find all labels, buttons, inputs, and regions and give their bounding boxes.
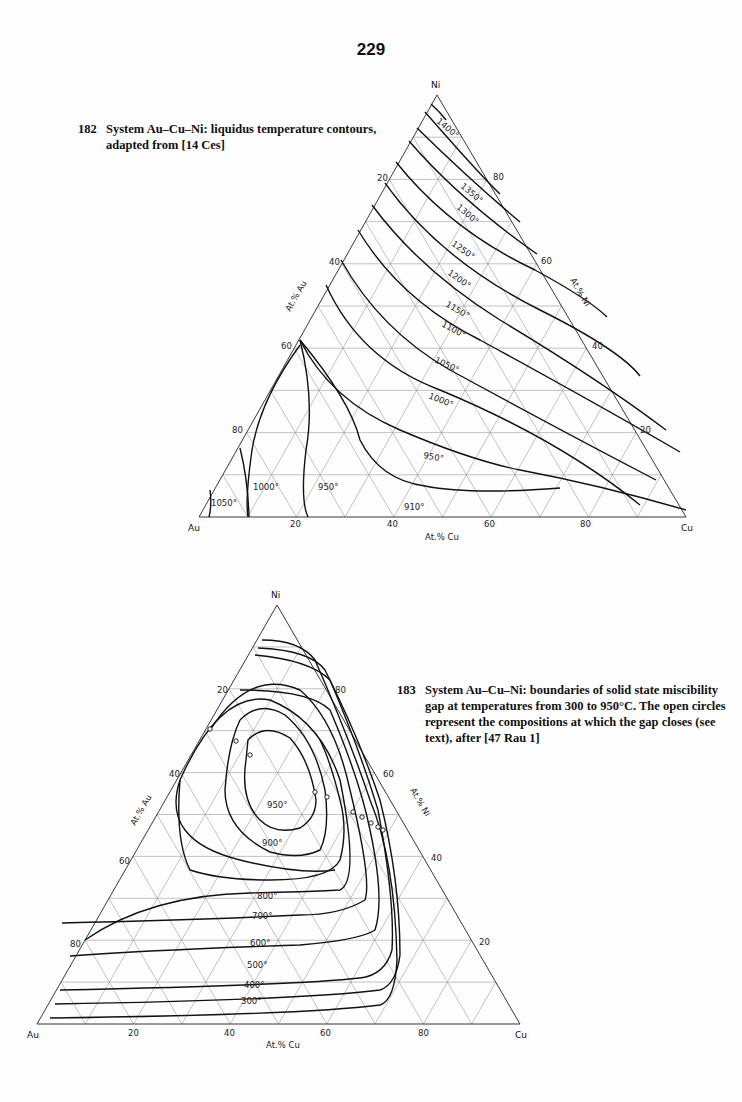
svg-text:60: 60 [320,1028,331,1038]
miscibility-gap-curves [50,640,400,1018]
svg-text:20: 20 [479,937,490,947]
svg-text:20: 20 [217,685,228,695]
svg-text:900°: 900° [262,838,282,848]
svg-text:80: 80 [335,685,346,695]
svg-text:60: 60 [383,769,394,779]
axis-label-au: At.% Au [128,793,154,827]
svg-text:600°: 600° [250,938,270,948]
svg-text:60: 60 [119,856,130,866]
axis-label-ni: At.% Ni [408,786,432,818]
svg-text:400°: 400° [244,980,264,990]
vertex-cu: Cu [515,1030,527,1040]
svg-text:700°: 700° [252,911,272,921]
vertex-au: Au [27,1030,39,1040]
svg-text:40: 40 [431,853,442,863]
svg-text:40: 40 [169,769,180,779]
svg-text:20: 20 [128,1028,139,1038]
svg-text:500°: 500° [247,960,267,970]
axis-ticks: 20 40 60 80 80 60 40 20 20 40 60 80 [70,685,490,1038]
svg-text:800°: 800° [257,891,277,901]
axis-label-cu: At.% Cu [266,1040,300,1050]
vertex-ni: Ni [271,590,280,600]
svg-text:80: 80 [418,1028,429,1038]
ternary-diagram-183: 950° 900° 800° 700° 600° 500° 400° 300° … [0,0,742,1102]
svg-text:40: 40 [224,1028,235,1038]
isotherm-labels: 950° 900° 800° 700° 600° 500° 400° 300° [241,800,287,1006]
svg-text:300°: 300° [241,996,261,1006]
svg-text:80: 80 [70,939,81,949]
svg-text:950°: 950° [267,800,287,810]
